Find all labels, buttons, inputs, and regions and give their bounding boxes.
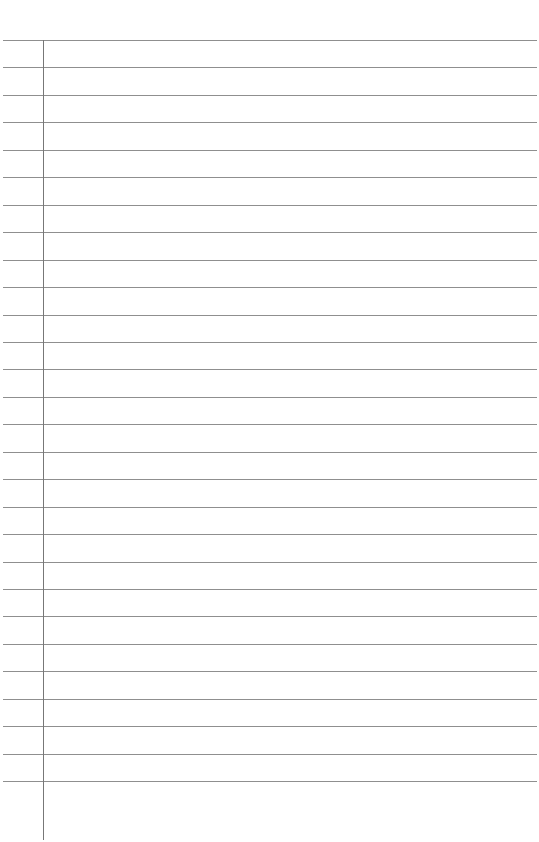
ruled-line [3,644,537,645]
ruled-line [3,507,537,508]
ruled-line [3,122,537,123]
ruled-line [3,754,537,755]
ruled-line [3,589,537,590]
ruled-line [3,40,537,41]
lined-paper-page [0,0,539,842]
ruled-line [3,315,537,316]
ruled-line [3,397,537,398]
ruled-line [3,671,537,672]
ruled-line [3,95,537,96]
ruled-line [3,699,537,700]
ruled-line [3,260,537,261]
ruled-line [3,479,537,480]
margin-line [43,40,44,840]
ruled-line [3,342,537,343]
ruled-line [3,562,537,563]
ruled-line [3,287,537,288]
ruled-line [3,781,537,782]
ruled-line [3,534,537,535]
ruled-line [3,177,537,178]
ruled-line [3,232,537,233]
ruled-line [3,205,537,206]
ruled-line [3,150,537,151]
ruled-line [3,369,537,370]
ruled-line [3,726,537,727]
ruled-line [3,452,537,453]
ruled-line [3,616,537,617]
ruled-line [3,424,537,425]
ruled-line [3,67,537,68]
